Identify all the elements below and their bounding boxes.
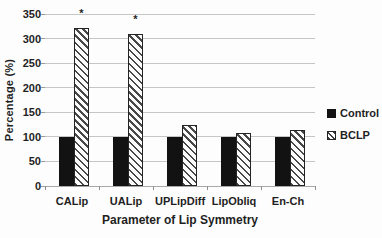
y-tick-mark-150 xyxy=(41,112,45,113)
x-tick-mark-5 xyxy=(315,186,316,190)
bar-control-calip xyxy=(59,137,74,186)
y-tick-mark-0 xyxy=(41,186,45,187)
y-tick-label-0: 0 xyxy=(0,179,41,193)
bar-bclp-uplipdiff xyxy=(182,125,197,186)
x-tick-mark-1 xyxy=(99,186,100,190)
y-tick-label-200: 200 xyxy=(0,81,41,95)
bar-bclp-en-ch xyxy=(290,130,305,186)
legend-marker-control-icon xyxy=(327,109,336,118)
y-tick-mark-350 xyxy=(41,14,45,15)
y-tick-label-50: 50 xyxy=(0,154,41,168)
gridline-350 xyxy=(45,14,315,15)
y-axis-title: Percentage (%) xyxy=(3,59,15,141)
bar-chart-figure: Percentage (%) 050100150200250300350 CAL… xyxy=(0,0,382,238)
plot-area xyxy=(45,14,315,186)
legend-label-bclp: BCLP xyxy=(340,129,370,141)
y-tick-mark-50 xyxy=(41,161,45,162)
bar-control-uplipdiff xyxy=(167,137,182,186)
category-label-ualip: UALip xyxy=(99,195,153,208)
bar-control-ualip xyxy=(113,137,128,186)
category-label-en-ch: En-Ch xyxy=(261,195,315,208)
y-tick-label-250: 250 xyxy=(0,56,41,70)
y-tick-label-350: 350 xyxy=(0,7,41,21)
x-tick-mark-3 xyxy=(207,186,208,190)
legend-item-bclp: BCLP xyxy=(327,124,379,146)
category-label-lipobliq: LipObliq xyxy=(207,195,261,208)
chart-legend: ControlBCLP xyxy=(327,102,379,146)
y-tick-mark-200 xyxy=(41,87,45,88)
bar-bclp-lipobliq xyxy=(236,133,251,186)
y-tick-mark-100 xyxy=(41,136,45,137)
y-tick-label-150: 150 xyxy=(0,105,41,119)
bar-bclp-ualip xyxy=(128,34,143,186)
legend-marker-bclp-icon xyxy=(327,131,336,140)
legend-item-control: Control xyxy=(327,102,379,124)
significance-asterisk-calip: * xyxy=(79,7,83,19)
category-label-calip: CALip xyxy=(45,195,99,208)
y-tick-label-100: 100 xyxy=(0,130,41,144)
category-label-uplipdiff: UPLipDiff xyxy=(153,195,207,208)
y-tick-label-300: 300 xyxy=(0,32,41,46)
bar-control-en-ch xyxy=(275,137,290,186)
bar-control-lipobliq xyxy=(221,137,236,186)
significance-asterisk-ualip: * xyxy=(133,13,137,25)
x-tick-mark-0 xyxy=(45,186,46,190)
x-tick-mark-2 xyxy=(153,186,154,190)
legend-label-control: Control xyxy=(340,107,379,119)
x-axis-title: Parameter of Lip Symmetry xyxy=(45,213,315,227)
y-tick-mark-250 xyxy=(41,63,45,64)
x-tick-mark-4 xyxy=(261,186,262,190)
bar-bclp-calip xyxy=(74,28,89,186)
y-tick-mark-300 xyxy=(41,38,45,39)
